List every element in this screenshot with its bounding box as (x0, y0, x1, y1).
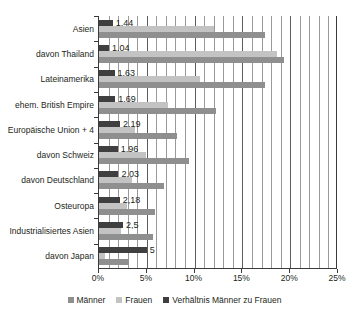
bar-row (99, 259, 336, 265)
bar-row (99, 158, 336, 164)
value-axis: 0%5%10%15%20%25% (98, 269, 337, 285)
clipped-header-artifact (0, 0, 349, 7)
legend-item[interactable]: Männer (68, 296, 106, 305)
category-label: Asien (0, 24, 94, 33)
category-label: Lateinamerika (0, 75, 94, 84)
bar-group: 1,44 (99, 16, 336, 41)
bar-group: 1,04 (99, 41, 336, 66)
chart-legend: MännerFrauenVerhältnis Männer zu Frauen (0, 296, 349, 305)
value-tick-label: 10% (185, 274, 202, 283)
bar-maenner (99, 82, 265, 88)
legend-swatch-icon (163, 297, 169, 303)
bar-maenner (99, 108, 216, 114)
plot-area: 1,441,041,631,692,191,962,032,182,55 (98, 16, 337, 269)
category-label: Industrialisiertes Asien (0, 227, 94, 236)
legend-label: Verhältnis Männer zu Frauen (172, 296, 281, 305)
bar-maenner (99, 57, 284, 63)
category-label: davon Thailand (0, 50, 94, 59)
legend-item[interactable]: Verhältnis Männer zu Frauen (163, 296, 281, 305)
bar-row (99, 234, 336, 240)
bar-group: 2,5 (99, 218, 336, 243)
category-label: davon Deutschland (0, 176, 94, 185)
legend-item[interactable]: Frauen (116, 296, 152, 305)
bar-maenner (99, 234, 153, 240)
bar-maenner (99, 209, 155, 215)
bar-group: 1,96 (99, 143, 336, 168)
bar-row (99, 57, 336, 63)
bar-row (99, 108, 336, 114)
value-tick-label: 20% (281, 274, 298, 283)
value-tick-label: 5% (140, 274, 152, 283)
bar-row (99, 183, 336, 189)
bar-group: 2,03 (99, 168, 336, 193)
legend-swatch-icon (116, 297, 122, 303)
value-tick-label: 25% (328, 274, 345, 283)
legend-swatch-icon (68, 297, 74, 303)
bar-group: 1,63 (99, 67, 336, 92)
bar-chart: Asiendavon ThailandLateinamerikaehem. Br… (0, 0, 349, 318)
category-label: Osteuropa (0, 202, 94, 211)
bar-group: 1,69 (99, 92, 336, 117)
bar-group: 2,19 (99, 117, 336, 142)
value-tick-label: 15% (233, 274, 250, 283)
bar-row (99, 32, 336, 38)
bar-row (99, 133, 336, 139)
legend-label: Frauen (125, 296, 152, 305)
bar-maenner (99, 133, 177, 139)
category-label: ehem. British Empire (0, 100, 94, 109)
bar-maenner (99, 183, 164, 189)
bar-group: 5 (99, 244, 336, 269)
category-label: Europäische Union + 4 (0, 126, 94, 135)
bar-groups: 1,441,041,631,692,191,962,032,182,55 (99, 16, 336, 268)
value-tick-label: 0% (92, 274, 104, 283)
bar-maenner (99, 158, 189, 164)
bar-maenner (99, 259, 129, 265)
bar-group: 2,18 (99, 193, 336, 218)
bar-maenner (99, 32, 265, 38)
bar-row (99, 209, 336, 215)
category-label: davon Schweiz (0, 151, 94, 160)
category-axis: Asiendavon ThailandLateinamerikaehem. Br… (0, 16, 94, 269)
legend-label: Männer (77, 296, 106, 305)
category-label: davon Japan (0, 252, 94, 261)
bar-row (99, 82, 336, 88)
